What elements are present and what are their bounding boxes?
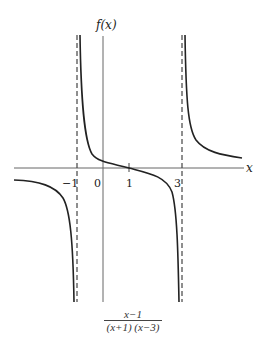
tick-label-3: 3 bbox=[174, 177, 181, 190]
caption-numerator: x−1 bbox=[104, 308, 161, 320]
tick-label-neg1: −1 bbox=[62, 177, 78, 190]
fraction: x−1 (x+1) (x−3) bbox=[104, 308, 161, 333]
x-axis-label: x bbox=[246, 161, 253, 175]
curve-right-branch bbox=[185, 35, 242, 158]
tick-label-0: 0 bbox=[94, 177, 101, 190]
curve-left-branch bbox=[14, 180, 74, 302]
function-caption: x−1 (x+1) (x−3) bbox=[0, 308, 266, 333]
function-plot: f(x) x −1 0 1 3 bbox=[0, 0, 266, 348]
y-axis-label: f(x) bbox=[95, 18, 117, 32]
caption-denominator: (x+1) (x−3) bbox=[104, 320, 161, 333]
tick-label-1: 1 bbox=[126, 177, 133, 190]
